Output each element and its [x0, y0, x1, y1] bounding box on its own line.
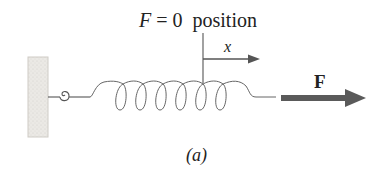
- wall: [28, 57, 48, 137]
- figure-title: F = 0 position: [138, 9, 257, 32]
- figure-caption: (a): [186, 145, 207, 166]
- spring-diagram: x F F = 0 position (a): [0, 0, 383, 181]
- x-axis-label: x: [223, 38, 231, 55]
- spring: [90, 81, 276, 110]
- force-label: F: [314, 71, 326, 92]
- hook-icon: [48, 92, 90, 101]
- title-rest: = 0 position: [151, 9, 257, 32]
- x-axis-arrow-icon: [203, 55, 260, 64]
- title-variable: F: [138, 9, 152, 31]
